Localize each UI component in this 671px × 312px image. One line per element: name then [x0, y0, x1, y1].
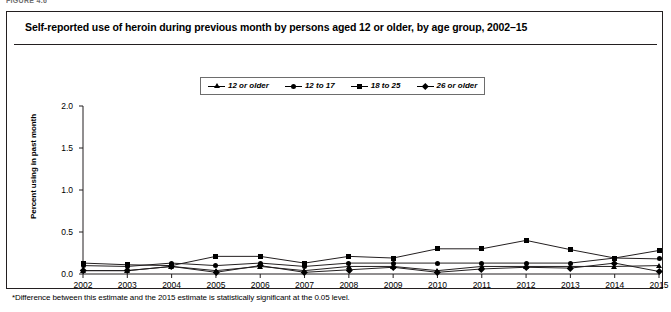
data-point-square — [258, 254, 263, 259]
data-point-circle — [657, 256, 662, 261]
y-tick-label: 1.5 — [47, 144, 73, 153]
data-point-square — [657, 248, 662, 253]
x-tick-label: 2015 — [642, 281, 671, 290]
data-point-square — [346, 254, 351, 259]
y-tick-label: 0.0 — [47, 270, 73, 279]
data-point-circle — [479, 261, 484, 266]
figure-eyebrow: FIGURE 4.6 — [6, 0, 47, 5]
x-tick-label: 2004 — [155, 281, 189, 290]
x-tick-label: 2009 — [376, 281, 410, 290]
data-point-circle — [435, 261, 440, 266]
x-tick-label: 2013 — [553, 281, 587, 290]
x-tick-label: 2010 — [420, 281, 454, 290]
data-point-square — [479, 246, 484, 251]
footnote-text: Difference between this estimate and the… — [15, 293, 350, 302]
x-tick-label: 2011 — [465, 281, 499, 290]
chart-canvas — [7, 12, 664, 290]
data-point-square — [302, 261, 307, 266]
y-tick-label: 0.5 — [47, 228, 73, 237]
figure-root: FIGURE 4.6 Self-reported use of heroin d… — [0, 0, 671, 312]
data-point-circle — [346, 261, 351, 266]
x-tick-label: 2007 — [288, 281, 322, 290]
data-point-square — [435, 246, 440, 251]
x-tick-label: 2003 — [110, 281, 144, 290]
x-tick-label: 2014 — [598, 281, 632, 290]
figure-frame: Self-reported use of heroin during previ… — [6, 11, 663, 289]
data-point-square — [524, 238, 529, 243]
x-tick-label: 2012 — [509, 281, 543, 290]
x-tick-label: 2008 — [332, 281, 366, 290]
x-tick-label: 2005 — [199, 281, 233, 290]
x-tick-label: 2002 — [66, 281, 100, 290]
y-tick-label: 1.0 — [47, 186, 73, 195]
data-point-square — [213, 254, 218, 259]
data-point-square — [568, 247, 573, 252]
y-tick-label: 2.0 — [47, 102, 73, 111]
figure-footnote: *Difference between this estimate and th… — [12, 293, 350, 302]
x-tick-label: 2006 — [243, 281, 277, 290]
data-point-square — [391, 256, 396, 261]
plot-area: Percent using in past month 0.00.51.01.5… — [7, 12, 664, 290]
data-point-square — [81, 261, 86, 266]
